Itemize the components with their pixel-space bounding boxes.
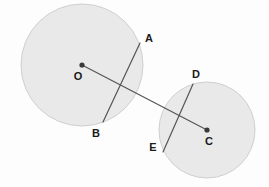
center-dot-o xyxy=(79,62,84,67)
point-label-c: C xyxy=(205,135,213,147)
center-dot-c xyxy=(204,127,209,132)
point-label-e: E xyxy=(149,141,156,153)
point-label-a: A xyxy=(145,32,153,44)
point-label-d: D xyxy=(192,68,200,80)
geometry-figure: A B D E O C xyxy=(0,0,269,187)
geometry-canvas: A B D E O C xyxy=(0,0,269,187)
point-label-b: B xyxy=(92,127,100,139)
point-label-o: O xyxy=(74,70,83,82)
